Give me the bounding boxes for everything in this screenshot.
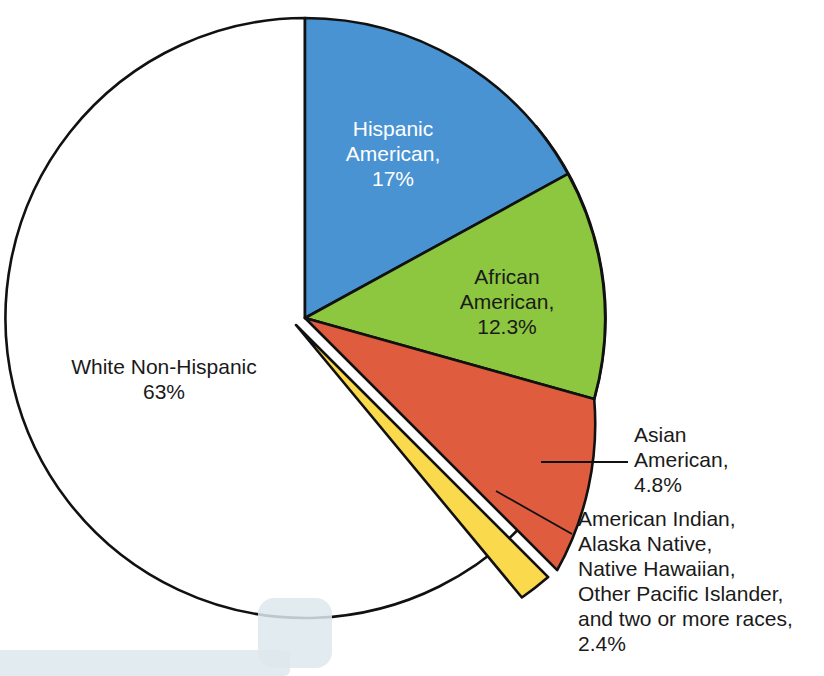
pie-label-hispanic-american: Hispanic American, 17% xyxy=(318,116,468,191)
pie-label-white-non-hispanic: White Non-Hispanic 63% xyxy=(52,354,276,404)
scan-artifact-bar xyxy=(0,650,290,676)
pie-chart-figure: Hispanic American, 17% African American,… xyxy=(0,0,824,676)
pie-label-african-american: African American, 12.3% xyxy=(432,264,582,339)
pie-label-american-indian-other: American Indian, Alaska Native, Native H… xyxy=(578,506,824,656)
pie-label-asian-american: Asian American, 4.8% xyxy=(634,422,814,497)
